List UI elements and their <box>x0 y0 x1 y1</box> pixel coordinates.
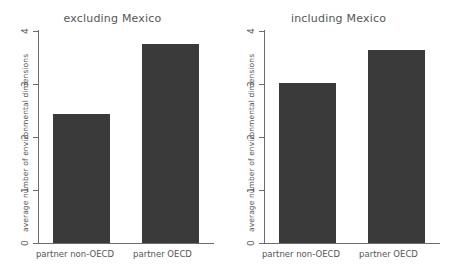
x-tick-label-partner-oecd: partner OECD <box>105 249 220 259</box>
x-tick-label-partner-oecd: partner OECD <box>331 249 446 259</box>
figure: excluding Mexico average number of envir… <box>0 0 451 270</box>
bar-partner-non-oecd[interactable] <box>53 114 110 243</box>
y-tick-label-4: 4 <box>20 26 31 37</box>
y-tick-0 <box>33 243 38 244</box>
y-tick-0 <box>259 243 264 244</box>
bar-partner-oecd[interactable] <box>142 44 199 243</box>
y-tick-label-0: 0 <box>246 238 257 249</box>
y-tick-label-0: 0 <box>20 238 31 249</box>
y-tick-label-3: 3 <box>246 79 257 90</box>
y-tick-label-1: 1 <box>246 185 257 196</box>
bar-partner-oecd[interactable] <box>368 50 425 243</box>
panel-title: including Mexico <box>226 12 451 25</box>
panel-including-mexico: including Mexico average number of envir… <box>226 0 451 270</box>
y-tick-label-1: 1 <box>20 185 31 196</box>
x-axis-line <box>264 243 440 244</box>
bar-partner-non-oecd[interactable] <box>279 83 336 243</box>
x-axis-line <box>38 243 214 244</box>
y-tick-label-2: 2 <box>20 132 31 143</box>
y-tick-label-2: 2 <box>246 132 257 143</box>
panel-excluding-mexico: excluding Mexico average number of envir… <box>0 0 225 270</box>
plot-area <box>38 30 214 243</box>
y-tick-label-3: 3 <box>20 79 31 90</box>
y-tick-label-4: 4 <box>246 26 257 37</box>
plot-area <box>264 30 440 243</box>
panel-title: excluding Mexico <box>0 12 225 25</box>
